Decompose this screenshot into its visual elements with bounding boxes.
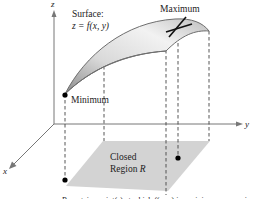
maximum-projection-point bbox=[175, 155, 180, 160]
x-axis bbox=[12, 124, 54, 166]
region-prefix: Region bbox=[110, 164, 140, 174]
minimum-projection-point bbox=[62, 177, 67, 182]
surface-equation: z = f(x, y) bbox=[71, 21, 109, 32]
maximum-label: Maximum bbox=[160, 4, 200, 14]
x-axis-label: x bbox=[2, 166, 7, 176]
extrema-diagram: z y x Surface: z = f(x, y) Maximum Minim… bbox=[0, 0, 253, 199]
z-axis-arrow-icon bbox=[52, 10, 57, 17]
equation-prefix: z = bbox=[71, 21, 87, 31]
region-label-line1: Closed bbox=[110, 152, 137, 162]
minimum-point bbox=[62, 92, 67, 97]
y-axis-arrow-icon bbox=[236, 122, 243, 127]
surface-title: Surface: bbox=[72, 9, 104, 19]
z-axis-label: z bbox=[50, 0, 55, 9]
region-label-line2: Region R bbox=[110, 164, 146, 174]
equation-args: (x, y) bbox=[90, 21, 110, 32]
minimum-label: Minimum bbox=[71, 95, 110, 105]
figure-caption: R contains point(s) at which f(x, y) is … bbox=[62, 196, 253, 199]
region-var: R bbox=[139, 164, 146, 174]
y-axis-label: y bbox=[244, 119, 249, 129]
diagram-canvas: z y x Surface: z = f(x, y) Maximum Minim… bbox=[0, 0, 253, 199]
